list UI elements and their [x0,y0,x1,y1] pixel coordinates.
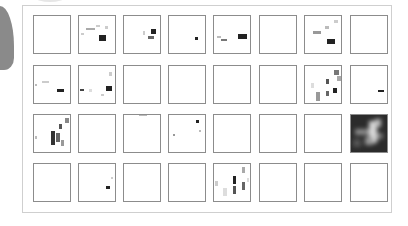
activation-blob [238,34,247,39]
activation-blob [217,36,221,38]
feature-map-thumbnail [213,15,251,54]
feature-map-thumbnail [33,65,71,104]
feature-map-thumbnail [259,15,297,54]
feature-map-thumbnail [33,15,71,54]
activation-blob [109,72,112,76]
feature-map-thumbnail [213,114,251,153]
activation-blob [106,86,112,91]
activation-blob [61,140,64,146]
feature-map-thumbnail [123,163,161,202]
activation-blob [326,91,329,96]
activation-blob [89,89,92,92]
feature-map-thumbnail [350,114,388,153]
feature-map-thumbnail [350,65,388,104]
activation-blob [233,176,236,184]
dense-activation-map [351,115,387,152]
activation-blob [35,84,37,86]
feature-map-thumbnail [123,65,161,104]
activation-blob [51,131,55,145]
activation-blob [242,167,245,173]
activation-blob [65,118,69,123]
activation-blob [334,20,338,23]
top-decorative-arc [36,0,64,2]
feature-map-thumbnail [168,114,206,153]
feature-map-thumbnail [304,114,342,153]
activation-blob [105,26,108,29]
activation-blob [223,188,227,196]
activation-blob [101,94,104,96]
activation-blob [59,124,62,129]
activation-blob [42,81,49,83]
activation-blob [195,37,198,40]
activation-blob [334,70,339,75]
feature-map-thumbnail [123,114,161,153]
activation-blob [106,186,110,189]
activation-blob [143,31,145,35]
activation-blob [247,178,249,182]
activation-blob [378,90,384,92]
activation-blob [326,79,329,84]
feature-map-thumbnail [78,15,116,54]
activation-blob [86,28,95,30]
activation-blob [81,33,84,35]
activation-blob [196,120,199,123]
activation-blob [173,134,175,136]
activation-blob [313,31,321,34]
activation-blob [99,35,106,41]
activation-blob [80,89,84,91]
feature-map-thumbnail [304,15,342,54]
side-decorative-shape [0,6,14,70]
feature-map-thumbnail [213,163,251,202]
activation-blob [139,115,147,116]
feature-map-thumbnail [123,15,161,54]
feature-map-thumbnail [78,114,116,153]
activation-blob [215,181,218,186]
activation-blob [35,136,37,139]
activation-blob [327,39,335,44]
feature-map-thumbnail [304,65,342,104]
feature-map-thumbnail [213,65,251,104]
activation-blob [151,29,156,34]
activation-blob [111,177,113,179]
activation-blob [199,130,201,132]
figure-canvas [0,0,408,226]
activation-blob [337,76,341,81]
activation-blob [148,36,154,39]
feature-map-thumbnail [304,163,342,202]
feature-map-thumbnail [168,15,206,54]
activation-blob [56,133,60,142]
feature-map-thumbnail [33,114,71,153]
activation-blob [316,92,320,101]
feature-map-thumbnail [78,65,116,104]
activation-blob [57,89,64,92]
activation-blob [233,186,236,194]
feature-map-thumbnail [259,163,297,202]
activation-blob [221,39,227,41]
feature-map-thumbnail [259,65,297,104]
feature-map-thumbnail [168,163,206,202]
feature-map-thumbnail [33,163,71,202]
feature-map-thumbnail [168,65,206,104]
feature-map-thumbnail [259,114,297,153]
activation-blob [333,88,337,93]
activation-blob [96,25,100,27]
activation-blob [311,83,314,88]
activation-blob [325,26,329,29]
feature-map-thumbnail [350,163,388,202]
activation-blob [242,182,245,190]
thumbnail-grid-panel [22,5,392,213]
feature-map-thumbnail [78,163,116,202]
feature-map-thumbnail [350,15,388,54]
